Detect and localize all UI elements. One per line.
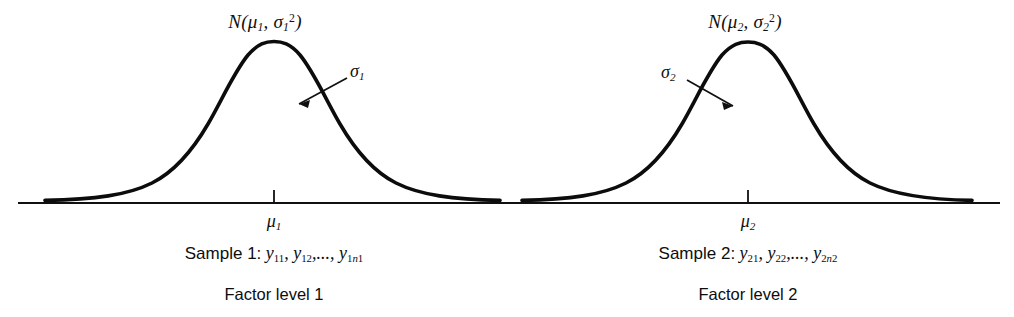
factor2-text: Factor level 2 <box>698 285 797 303</box>
sample2-y2-sub: 22 <box>775 252 786 264</box>
sample2-yn-sub-n-sub: 2 <box>832 252 837 264</box>
mu2-axis-label: μ2 <box>741 212 756 232</box>
sample-label-1: Sample 1: y11, y12,..., y1n1 <box>185 244 363 264</box>
mu2-symbol: μ <box>741 211 750 231</box>
mu1-symbol: μ <box>267 211 276 231</box>
mu1-axis-label: μ1 <box>267 212 282 232</box>
sample1-prefix: Sample 1: <box>185 244 262 263</box>
factor-level-label-1: Factor level 1 <box>224 286 323 303</box>
dist2-mu: μ <box>728 11 738 32</box>
sample1-ellipsis: ,..., <box>312 243 335 263</box>
mu1-sub: 1 <box>276 220 282 232</box>
dist1-mu: μ <box>248 11 258 32</box>
factor1-text: Factor level 1 <box>224 285 323 303</box>
sigma1-sub: 1 <box>359 70 365 82</box>
distribution-label-1: N(μ1, σ12) <box>228 12 301 34</box>
normal-curve-1 <box>45 42 500 201</box>
dist2-sigma: σ <box>753 11 763 32</box>
sample2-y1-sub: 21 <box>748 252 759 264</box>
sigma2-sub: 2 <box>670 71 676 83</box>
plot-canvas <box>0 0 1014 317</box>
sample2-y2: y <box>767 243 775 263</box>
dist1-comma: , <box>264 11 274 32</box>
dist2-fn: N <box>708 11 721 32</box>
sample-label-2: Sample 2: y21, y22,..., y2n2 <box>659 244 838 264</box>
sample1-yn-sub-n-sub: 1 <box>358 252 363 264</box>
dist2-comma: , <box>744 11 754 32</box>
sample2-prefix: Sample 2: <box>659 244 736 263</box>
dist1-fn: N <box>228 11 241 32</box>
sigma2-symbol: σ <box>661 62 670 82</box>
sample1-y1: y <box>266 243 274 263</box>
sample1-y2-sub: 12 <box>301 252 312 264</box>
normal-curve-2 <box>522 42 972 200</box>
sample2-ellipsis: ,..., <box>786 243 809 263</box>
sample1-y1-sub: 11 <box>274 252 284 264</box>
distribution-label-2: N(μ2, σ22) <box>708 12 781 34</box>
factor-level-label-2: Factor level 2 <box>698 286 797 303</box>
sample2-yn: y <box>813 243 821 263</box>
sigma2-label: σ2 <box>661 63 675 83</box>
normal-distributions-figure: N(μ1, σ12) σ1 μ1 Sample 1: y11, y12,...,… <box>0 0 1014 317</box>
dist1-close: ) <box>295 11 302 32</box>
sample2-y1: y <box>740 243 748 263</box>
dist1-sigma: σ <box>273 11 283 32</box>
mu2-sub: 2 <box>750 220 756 232</box>
sigma1-label: σ1 <box>350 62 364 82</box>
sigma1-symbol: σ <box>350 61 359 81</box>
dist2-close: ) <box>775 11 782 32</box>
